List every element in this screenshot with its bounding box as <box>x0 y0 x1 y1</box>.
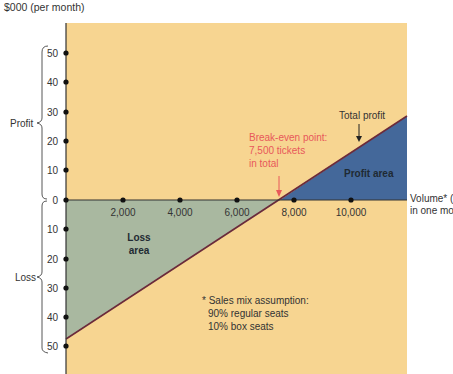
x-tick: 2,000 <box>110 207 135 218</box>
break-even-label-3: in total <box>249 158 278 169</box>
y-tick: 40 <box>47 77 59 88</box>
x-tick: 6,000 <box>224 207 249 218</box>
loss-area-label-1: Loss <box>127 232 151 243</box>
break-even-label-2: 7,500 tickets <box>249 145 305 156</box>
x-axis-title-line2: in one mo <box>410 205 453 216</box>
y-tick: 40 <box>47 312 59 323</box>
x-axis-title-line1: Volume* ( <box>410 193 453 204</box>
y-tick: 20 <box>47 136 59 147</box>
y-tick: 30 <box>47 283 59 294</box>
profit-brace <box>37 46 48 199</box>
break-even-label-1: Break-even point: <box>249 132 327 143</box>
y-tick: 20 <box>47 254 59 265</box>
sales-mix-note-3: 10% box seats <box>208 321 274 332</box>
sales-mix-note-1: * Sales mix assumption: <box>202 295 309 306</box>
sales-mix-note-2: 90% regular seats <box>208 308 289 319</box>
y-tick: 50 <box>47 341 59 352</box>
cvp-chart: 50 40 30 20 10 0 10 20 30 40 50 2,000 4,… <box>0 0 453 374</box>
y-tick: 50 <box>47 48 59 59</box>
y-tick: 10 <box>47 224 59 235</box>
loss-area-label-2: area <box>129 245 150 256</box>
y-tick: 10 <box>47 165 59 176</box>
y-tick: 0 <box>52 195 58 206</box>
y-tick: 30 <box>47 107 59 118</box>
x-tick: 4,000 <box>167 207 192 218</box>
profit-brace-label: Profit <box>10 118 34 129</box>
x-tick: 10,000 <box>336 207 367 218</box>
profit-area-label: Profit area <box>344 168 394 179</box>
total-profit-label: Total profit <box>339 110 385 121</box>
x-tick: 8,000 <box>281 207 306 218</box>
loss-brace-label: Loss <box>15 272 36 283</box>
